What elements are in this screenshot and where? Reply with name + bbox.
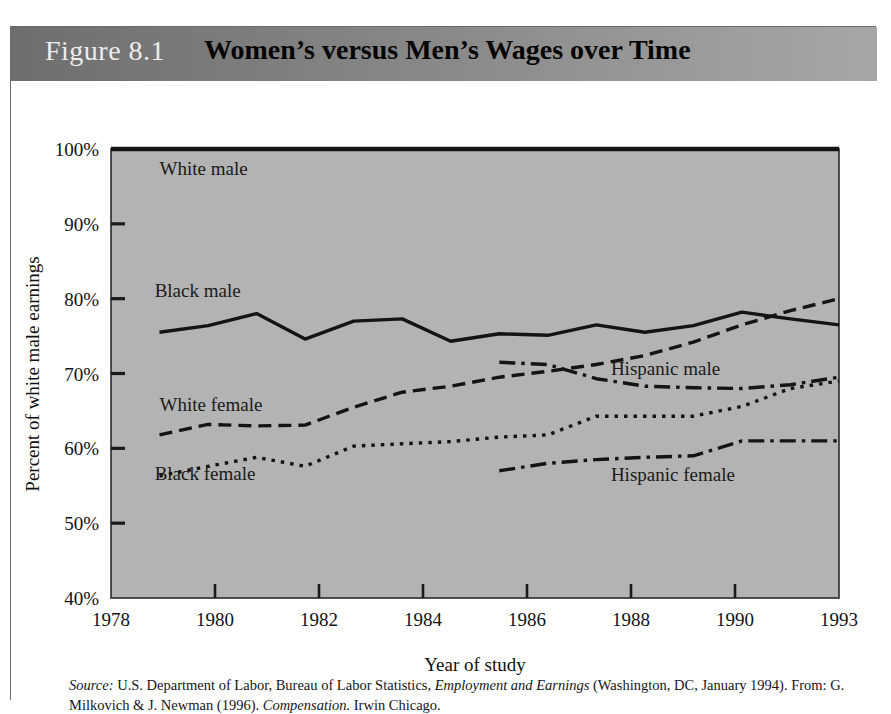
series-label-black-female: Black female — [155, 463, 256, 484]
y-tick-label: 80% — [64, 289, 99, 310]
x-tick-label: 1986 — [508, 609, 546, 630]
y-tick-label: 60% — [64, 438, 99, 459]
series-label-hispanic-male: Hispanic male — [611, 358, 720, 379]
x-tick-label: 1990 — [716, 609, 754, 630]
source-text-1: U.S. Department of Labor, Bureau of Labo… — [114, 677, 435, 693]
y-axis-tick-labels: 100%90%80%70%60%50%40% — [55, 139, 100, 609]
x-tick-label: 1993 — [820, 609, 858, 630]
y-tick-label: 50% — [64, 513, 99, 534]
plot-background — [111, 149, 839, 598]
y-axis-title: Percent of white male earnings — [22, 256, 43, 491]
y-tick-label: 40% — [64, 588, 99, 609]
source-italic-publication: Employment and Earnings — [435, 677, 590, 693]
source-text-3: Irwin Chicago. — [350, 697, 441, 713]
y-tick-label: 70% — [64, 364, 99, 385]
figure-title: Women’s versus Men’s Wages over Time — [204, 34, 691, 66]
x-tick-label: 1978 — [92, 609, 130, 630]
series-label-black-male: Black male — [155, 280, 241, 301]
x-tick-label: 1980 — [196, 609, 234, 630]
x-tick-label: 1988 — [612, 609, 650, 630]
series-label-hispanic-female: Hispanic female — [611, 464, 735, 485]
x-tick-label: 1984 — [404, 609, 443, 630]
wages-line-chart: 100%90%80%70%60%50%40% 19781980198219841… — [11, 81, 877, 700]
x-tick-label: 1982 — [300, 609, 338, 630]
source-note: Source: U.S. Department of Labor, Bureau… — [69, 675, 859, 714]
x-axis-tick-labels: 19781980198219841986198819901993 — [92, 609, 858, 630]
series-label-white-male: White male — [160, 158, 248, 179]
x-axis-title: Year of study — [424, 654, 526, 675]
source-italic-book: Compensation. — [263, 697, 350, 713]
source-label: Source: — [69, 677, 114, 693]
y-tick-label: 100% — [55, 139, 100, 160]
chart-plot-area: 100%90%80%70%60%50%40% 19781980198219841… — [11, 81, 877, 700]
figure-card: Figure 8.1 Women’s versus Men’s Wages ov… — [10, 26, 876, 700]
figure-header-bar: Figure 8.1 Women’s versus Men’s Wages ov… — [11, 27, 877, 81]
figure-number: Figure 8.1 — [45, 35, 165, 67]
series-label-white-female: White female — [160, 394, 263, 415]
y-tick-label: 90% — [64, 214, 99, 235]
